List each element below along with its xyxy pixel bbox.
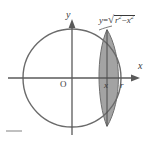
y-axis-label: y bbox=[66, 10, 70, 20]
math-figure: y x O x r y=√r2−x2 bbox=[0, 0, 162, 142]
equation-radicand: r2−x2 bbox=[114, 15, 135, 25]
radical-sign-icon: √ bbox=[108, 14, 114, 25]
radius-label: r bbox=[120, 81, 124, 90]
slice-position-label: x bbox=[104, 81, 108, 90]
origin-label: O bbox=[60, 80, 67, 89]
x-axis-label: x bbox=[138, 61, 142, 71]
y-axis-arrowhead bbox=[69, 19, 76, 28]
equation-leader-line bbox=[99, 26, 112, 30]
radicand-second-exponent: 2 bbox=[131, 14, 134, 20]
equation-radical: √r2−x2 bbox=[108, 14, 135, 25]
figure-canvas bbox=[0, 0, 162, 142]
x-axis-arrowhead bbox=[131, 75, 140, 82]
curve-equation-label: y=√r2−x2 bbox=[99, 14, 135, 25]
